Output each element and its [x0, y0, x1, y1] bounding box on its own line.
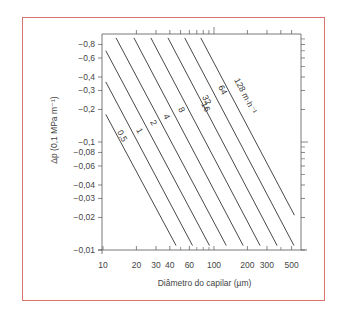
line-label-8: 8	[176, 105, 187, 114]
x-tick-label: 100	[207, 260, 221, 270]
chart-plot: 1020304060100200300500−0,8−0,6−0,4−0,3−0…	[0, 0, 339, 309]
y-tick-label: −0,01	[73, 245, 95, 255]
series-line	[106, 51, 210, 246]
x-tick-label: 20	[132, 260, 142, 270]
x-tick-label: 200	[240, 260, 254, 270]
y-tick-label: −0,02	[73, 212, 95, 222]
x-tick-label: 60	[185, 260, 195, 270]
x-axis-title: Diâmetro do capilar (µm)	[158, 278, 252, 288]
series-line	[134, 38, 243, 246]
series-line	[106, 82, 193, 246]
line-label-64: 64	[216, 83, 229, 96]
series-line	[168, 38, 277, 246]
y-tick-label: −0,6	[78, 53, 95, 63]
x-tick-label: 500	[284, 260, 298, 270]
y-tick-label: −0,04	[73, 180, 95, 190]
series-line	[116, 38, 226, 246]
line-label-4: 4	[161, 112, 172, 121]
y-tick-label: −0,08	[73, 147, 95, 157]
y-tick-label: −0,06	[73, 161, 95, 171]
x-tick-label: 30	[151, 260, 161, 270]
line-label-2: 2	[148, 118, 159, 127]
line-label-128: 128 m·h⁻¹	[232, 76, 259, 115]
y-tick-label: −0,8	[78, 39, 95, 49]
series-line	[151, 38, 260, 246]
series-line	[185, 38, 294, 246]
x-tick-label: 10	[98, 260, 108, 270]
y-tick-label: −0,2	[78, 104, 95, 114]
y-tick-label: −0,03	[73, 193, 95, 203]
y-tick-label: −0,1	[78, 137, 95, 147]
y-tick-label: −0,4	[78, 72, 95, 82]
y-axis-title: Δp (0,1 MPa m⁻¹)	[49, 96, 59, 164]
x-tick-label: 300	[260, 260, 274, 270]
x-tick-label: 40	[165, 260, 175, 270]
y-tick-label: −0,3	[78, 85, 95, 95]
line-label-0-5: 0,5	[115, 128, 130, 143]
line-label-1: 1	[134, 126, 145, 135]
